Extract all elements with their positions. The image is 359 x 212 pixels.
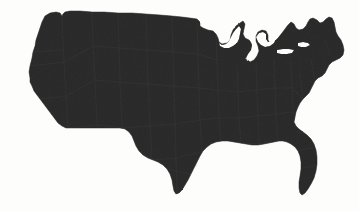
- us-map-figure: Solid dark silhouette map of the contigu…: [0, 0, 359, 212]
- us-map-svg: [0, 0, 359, 212]
